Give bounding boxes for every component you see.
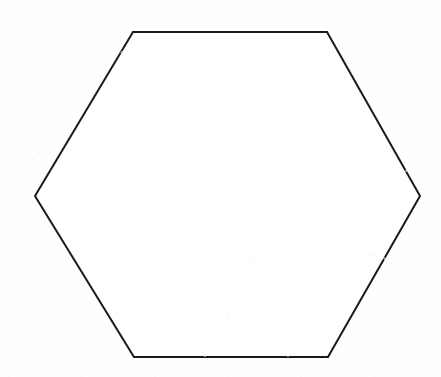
drawing-canvas <box>0 0 441 377</box>
hexagon-shape <box>35 32 420 357</box>
hexagon-figure <box>0 0 441 377</box>
